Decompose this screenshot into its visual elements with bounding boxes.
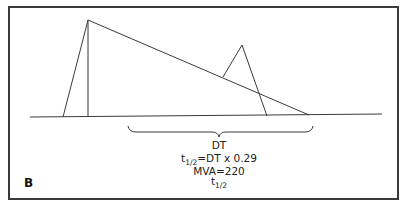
e-wave-upstroke bbox=[63, 20, 88, 117]
panel-label: B bbox=[24, 176, 33, 190]
half-time-formula: t1/2=DT x 0.29 bbox=[160, 153, 278, 164]
baseline bbox=[30, 114, 382, 117]
half-time-rest: =DT x 0.29 bbox=[197, 152, 257, 164]
mva-denominator-subscript: 1/2 bbox=[215, 181, 227, 190]
mva-denominator: t1/2 bbox=[160, 176, 278, 187]
dt-label: DT bbox=[160, 140, 278, 151]
deceleration-time-brace bbox=[128, 126, 313, 137]
mva-formula: MVA=220 bbox=[160, 166, 278, 177]
deceleration-slope bbox=[88, 20, 309, 115]
